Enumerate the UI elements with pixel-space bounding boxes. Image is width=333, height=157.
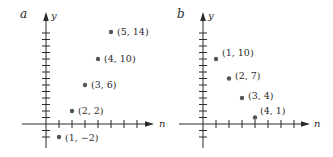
panel-b-label: b [177,7,185,21]
data-point-marker [109,30,113,34]
panel-b-point: (4, 1) [253,105,286,120]
panel-a-y-axis-label: y [50,10,57,21]
point-label: (2, 7) [235,70,261,81]
scatter-figure: a y n [0,0,333,157]
panel-b-x-axis-label: n [314,118,320,129]
point-label: (3, 4) [248,90,274,101]
panel-a-point: (1, −2) [57,132,99,143]
panel-a-point: (5, 14) [109,26,149,37]
data-point-marker [214,57,218,61]
panel-b-y-arrow-icon [200,12,206,21]
panel-b-point: (1, 10) [214,47,254,61]
point-label: (3, 6) [91,79,117,90]
data-point-marker [227,76,231,80]
panel-a-point: (4, 10) [96,53,136,64]
panel-a-point: (3, 6) [83,79,117,90]
data-point-marker [96,57,100,61]
point-label: (1, −2) [65,132,99,143]
point-label: (4, 10) [104,53,136,64]
panel-b-y-axis-label: y [207,10,214,21]
panel-b-x-arrow-icon [301,121,310,127]
point-label: (2, 2) [78,105,104,116]
point-label: (4, 1) [260,105,286,116]
data-point-marker [70,109,74,113]
panel-a: a y n [20,7,165,148]
point-label: (1, 10) [222,47,254,58]
panel-a-x-axis-label: n [159,118,165,129]
panel-a-label: a [20,7,27,21]
panel-b: b y n [177,7,320,148]
panel-a-x-arrow-icon [145,121,154,127]
data-point-marker [253,115,257,119]
panel-a-y-arrow-icon [43,12,49,21]
data-point-marker [240,96,244,100]
panel-b-point: (2, 7) [227,70,261,81]
panel-b-point: (3, 4) [240,90,274,101]
data-point-marker [83,83,87,87]
data-point-marker [57,135,61,139]
panel-a-point: (2, 2) [70,105,104,116]
point-label: (5, 14) [117,26,149,37]
